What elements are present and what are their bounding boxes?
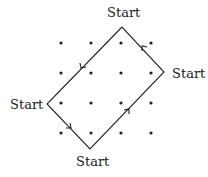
- start-label-right: Start: [172, 67, 205, 80]
- dot-grid: [59, 41, 152, 134]
- start-label-top: Start: [107, 6, 140, 19]
- direction-arrows: [66, 46, 147, 128]
- start-label-bottom: Start: [76, 155, 109, 168]
- grid-loop-diagram: [0, 0, 208, 177]
- loop-path: [47, 27, 164, 149]
- start-label-left: Start: [10, 98, 43, 111]
